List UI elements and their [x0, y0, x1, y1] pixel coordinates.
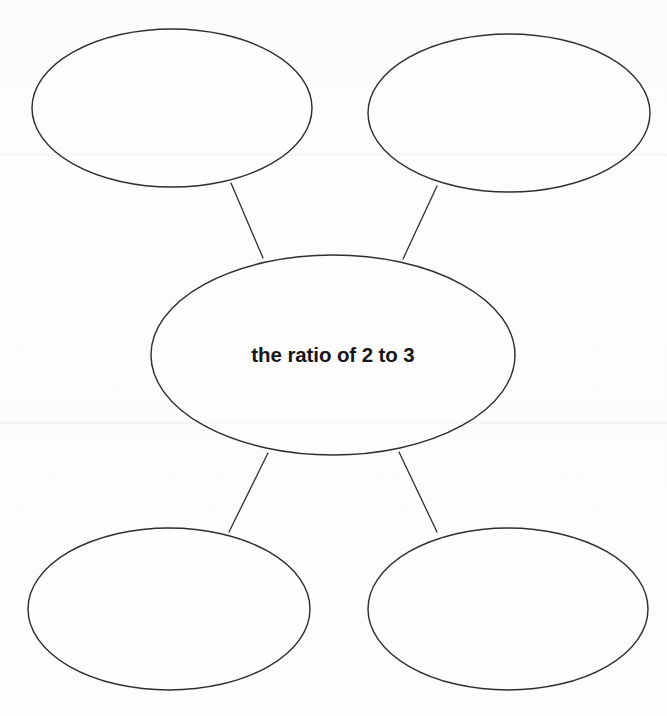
connector-top-left — [231, 183, 263, 258]
worksheet-canvas: the ratio of 2 to 3 — [0, 0, 667, 716]
concept-web-diagram: the ratio of 2 to 3 — [0, 0, 667, 716]
center-topic-label: the ratio of 2 to 3 — [251, 343, 414, 366]
idea-oval-bottom-right[interactable] — [368, 528, 648, 690]
idea-oval-bottom-left[interactable] — [28, 528, 310, 690]
idea-oval-top-left[interactable] — [32, 29, 312, 187]
connector-bottom-left — [229, 453, 268, 532]
idea-oval-top-right[interactable] — [368, 34, 650, 192]
connector-top-right — [403, 186, 437, 259]
connector-bottom-right — [399, 452, 437, 532]
